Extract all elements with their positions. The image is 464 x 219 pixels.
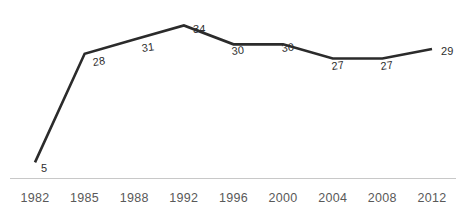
x-axis-tick-label: 1996: [219, 192, 248, 205]
data-point-label: 5: [41, 163, 47, 174]
x-axis-tick-label: 2000: [269, 192, 298, 205]
x-axis-tick-label: 2004: [318, 192, 347, 205]
x-axis-tick-label: 1982: [20, 192, 49, 205]
data-point-label: 30: [231, 45, 245, 57]
x-axis-tick-label: 2012: [417, 192, 446, 205]
data-point-label: 34: [193, 24, 206, 35]
x-axis-tick-label: 1985: [70, 192, 99, 205]
data-point-label: 27: [331, 59, 345, 71]
data-point-label: 27: [380, 59, 394, 71]
x-axis-tick-label: 2008: [368, 192, 397, 205]
data-point-label: 31: [141, 41, 155, 54]
data-point-label: 28: [92, 55, 106, 68]
line-chart: 52831343030272729 1982198519881992199620…: [0, 0, 464, 219]
chart-plot-area: [0, 0, 464, 219]
data-point-label: 30: [281, 42, 295, 54]
x-axis-tick-label: 1988: [120, 192, 149, 205]
x-axis-line: [10, 178, 456, 179]
data-point-label: 29: [441, 46, 454, 57]
x-axis-tick-label: 1992: [169, 192, 198, 205]
